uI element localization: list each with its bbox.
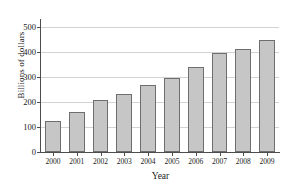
y-tick-label: 400 [23,47,36,57]
y-tick-label: 500 [23,22,36,32]
y-tick-label: 300 [23,72,36,82]
bar [164,78,180,152]
x-tick [53,153,54,156]
x-tick-label: 2009 [260,157,275,166]
plot-area: 0100200300400500 [41,22,279,152]
bar [69,112,85,152]
x-tick [124,153,125,156]
x-tick-label: 2000 [45,157,60,166]
bar [188,67,204,152]
x-tick-label: 2008 [236,157,251,166]
bar [93,100,109,152]
bar-series [41,22,279,152]
x-tick-label: 2006 [188,157,203,166]
x-tick-label: 2005 [164,157,179,166]
x-tick [196,153,197,156]
y-tick-label: 0 [32,147,36,157]
bar [116,94,132,152]
bar [212,53,228,152]
bar-chart: Billions of dollars 0100200300400500 200… [0,0,287,192]
x-tick [77,153,78,156]
x-tick [172,153,173,156]
x-tick [148,153,149,156]
x-tick-label: 2002 [93,157,108,166]
x-tick [267,153,268,156]
y-tick-label: 100 [23,122,36,132]
y-tick-label: 200 [23,97,36,107]
x-tick-label: 2004 [141,157,156,166]
x-tick-label: 2007 [212,157,227,166]
x-tick [243,153,244,156]
bar [45,121,61,152]
x-tick [101,153,102,156]
x-tick-label: 2003 [117,157,132,166]
x-axis-title: Year [41,171,280,181]
x-tick-label: 2001 [69,157,84,166]
bar [235,49,251,152]
bar [259,40,275,152]
x-tick [220,153,221,156]
y-axis-title: Billions of dollars [16,0,26,135]
bar [140,85,156,152]
